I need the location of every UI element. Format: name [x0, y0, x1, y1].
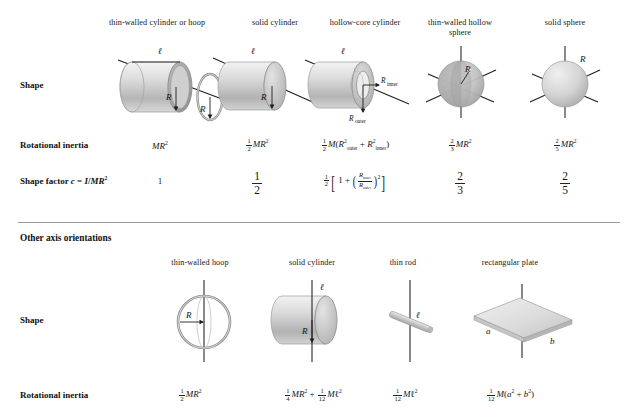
row-label-shape-factor: Shape factor c = I/MR2	[20, 175, 107, 186]
rotational-inertia-rectangular-plate: 112M(a2 + b2)	[450, 388, 570, 402]
row-label-rotational-inertia: Rotational inertia	[20, 140, 88, 150]
svg-text:a: a	[486, 326, 491, 336]
section-divider	[18, 222, 620, 223]
svg-text:R: R	[199, 104, 206, 114]
column-header-thin-walled-hoop: thin-walled hoop	[140, 258, 260, 268]
shape-factor-hollow-core-cylinder: 12[ 1 + (RinnerRouter)2]	[292, 172, 417, 194]
column-header-label: thin rod	[390, 258, 417, 267]
solid-cylinder-transverse-icon: ℓ R	[268, 276, 372, 364]
thin-walled-hoop-diameter-icon: R	[166, 278, 242, 364]
column-header-label: thin-walled cylinder or hoop	[109, 18, 205, 27]
svg-text:R: R	[260, 92, 267, 102]
svg-text:outer: outer	[355, 118, 366, 124]
row-label-shape: Shape	[20, 80, 44, 90]
row-label-rotational-inertia-bottom: Rotational inertia	[20, 390, 88, 400]
shape-factor-thin-walled-cylinder: 1	[120, 176, 200, 186]
row-label-shape-bottom: Shape	[20, 315, 44, 325]
svg-text:R: R	[348, 114, 354, 123]
svg-text:R: R	[380, 76, 386, 85]
svg-text:R: R	[165, 92, 172, 102]
solid-sphere-icon: R	[522, 44, 608, 122]
svg-text:b: b	[550, 336, 555, 346]
svg-text:ℓ: ℓ	[320, 282, 324, 292]
column-header-rectangular-plate: rectangular plate	[440, 258, 580, 268]
svg-text:R: R	[464, 64, 471, 74]
section-header-other-axis-orientations: Other axis orientations	[20, 233, 111, 243]
rotational-inertia-thin-walled-hollow-sphere: 23MR2	[415, 138, 505, 152]
rotational-inertia-solid-sphere: 25MR2	[520, 138, 610, 152]
shape-factor-solid-cylinder: 12	[212, 170, 302, 196]
hollow-core-cylinder-icon: R inner R outer ℓ	[305, 42, 423, 124]
rotational-inertia-thin-rod: 112Mℓ2	[355, 388, 455, 402]
shape-factor-thin-walled-hollow-sphere: 23	[415, 170, 505, 196]
svg-text:ℓ: ℓ	[158, 46, 162, 56]
svg-text:R: R	[185, 310, 192, 320]
thin-walled-hollow-sphere-icon: R	[418, 44, 504, 122]
column-header-thin-rod: thin rod	[353, 258, 453, 268]
moment-of-inertia-table: thin-walled cylinder or hoop solid cylin…	[0, 0, 630, 419]
svg-text:R: R	[579, 54, 586, 64]
column-header-thin-walled-hollow-sphere: thin-walled hollow sphere	[400, 18, 520, 38]
column-header-label: solid sphere	[545, 18, 586, 27]
column-header-label: thin-walled hoop	[171, 258, 228, 267]
column-header-label-line1: thin-walled hollow	[400, 18, 520, 28]
svg-text:ℓ: ℓ	[416, 310, 420, 320]
rectangular-plate-icon: a b	[462, 280, 582, 362]
rotational-inertia-thin-walled-hoop: 12MR2	[145, 388, 235, 402]
rotational-inertia-hollow-core-cylinder: 12M(R2outer + R2inner)	[295, 138, 415, 152]
svg-text:ℓ: ℓ	[251, 46, 255, 56]
thin-rod-icon: ℓ	[382, 278, 442, 364]
column-header-label: hollow-core cylinder	[330, 18, 400, 27]
column-header-label: solid cylinder	[289, 258, 335, 267]
column-header-thin-walled-cylinder: thin-walled cylinder or hoop	[77, 18, 237, 28]
svg-text:R: R	[301, 326, 308, 336]
svg-text:ℓ: ℓ	[341, 46, 345, 56]
column-header-label-line2: sphere	[400, 28, 520, 38]
shape-factor-solid-sphere: 25	[520, 170, 610, 196]
column-header-label: rectangular plate	[482, 258, 538, 267]
column-header-solid-sphere: solid sphere	[510, 18, 620, 28]
svg-text:inner: inner	[387, 81, 398, 87]
column-header-label: solid cylinder	[252, 18, 298, 27]
rotational-inertia-thin-walled-cylinder: MR2	[120, 140, 200, 151]
rotational-inertia-solid-cylinder: 12MR2	[212, 138, 302, 152]
